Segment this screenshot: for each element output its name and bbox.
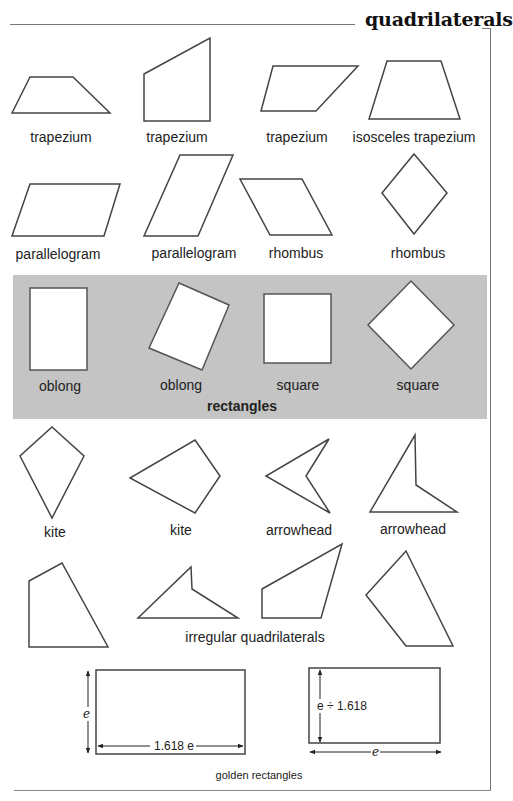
golden-2-width-label: e bbox=[371, 745, 380, 759]
trapezium-1-shape bbox=[12, 77, 110, 113]
irregular-1-shape bbox=[29, 563, 108, 647]
trapezium-3-shape bbox=[261, 66, 358, 111]
irregular-2-shape bbox=[138, 567, 238, 618]
golden-1-height-label: e bbox=[82, 707, 91, 721]
golden-2-height-label: e ÷ 1.618 bbox=[316, 699, 368, 713]
label-irregular-group: irregular quadrilaterals bbox=[185, 629, 324, 645]
oblong-2-shape bbox=[149, 283, 229, 370]
label-trapezium-2: trapezium bbox=[146, 129, 207, 145]
label-rectangles-group: rectangles bbox=[207, 398, 277, 414]
kite-2-shape bbox=[130, 440, 220, 513]
arrowhead-2-shape bbox=[370, 435, 457, 512]
label-oblong-1: oblong bbox=[39, 378, 81, 394]
arrowhead-1-shape bbox=[266, 439, 330, 513]
label-trapezium-3: trapezium bbox=[266, 129, 327, 145]
oblong-1-shape bbox=[30, 288, 87, 370]
label-isosceles-trapezium: isosceles trapezium bbox=[353, 129, 476, 145]
square-1-shape bbox=[264, 294, 331, 363]
trapezium-2-shape bbox=[144, 38, 210, 121]
label-rhombus-2: rhombus bbox=[391, 245, 445, 261]
label-kite-1: kite bbox=[44, 524, 66, 540]
golden-1-width-label: 1.618 e bbox=[152, 739, 196, 753]
label-parallelogram-1: parallelogram bbox=[16, 246, 101, 262]
label-oblong-2: oblong bbox=[160, 377, 202, 393]
label-arrowhead-2: arrowhead bbox=[380, 521, 446, 537]
golden-1-height-symbol: e bbox=[83, 707, 90, 721]
label-rhombus-1: rhombus bbox=[269, 245, 323, 261]
label-parallelogram-2: parallelogram bbox=[152, 245, 237, 261]
label-square-2: square bbox=[397, 377, 440, 393]
irregular-4-shape bbox=[366, 551, 453, 646]
irregular-3-shape bbox=[262, 544, 342, 618]
label-arrowhead-1: arrowhead bbox=[266, 522, 332, 538]
label-golden-group: golden rectangles bbox=[216, 769, 303, 781]
parallelogram-1-shape bbox=[12, 184, 120, 236]
isosceles-trapezium-shape bbox=[369, 61, 460, 119]
label-square-1: square bbox=[277, 377, 320, 393]
label-kite-2: kite bbox=[170, 522, 192, 538]
golden-2-width-symbol: e bbox=[372, 745, 379, 759]
label-trapezium-1: trapezium bbox=[30, 129, 91, 145]
kite-1-shape bbox=[20, 427, 84, 518]
parallelogram-2-shape bbox=[144, 155, 233, 236]
rhombus-2-shape bbox=[382, 154, 447, 234]
square-2-shape bbox=[368, 281, 454, 369]
rhombus-1-shape bbox=[240, 179, 332, 235]
